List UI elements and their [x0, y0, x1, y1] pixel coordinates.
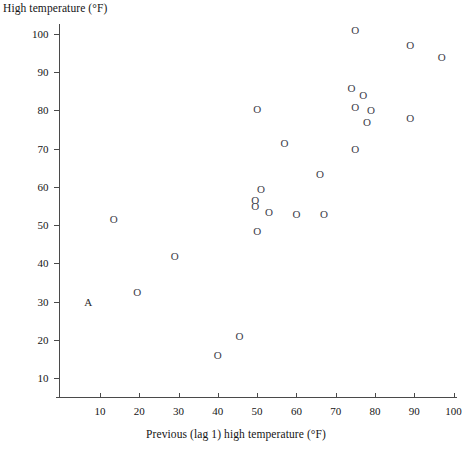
x-tick-mark	[336, 393, 337, 398]
y-tick-label: 30	[11, 296, 49, 308]
y-tick-label: 60	[11, 181, 49, 193]
x-tick-mark	[218, 393, 219, 398]
y-tick-mark	[54, 110, 59, 111]
x-tick-mark	[296, 393, 297, 398]
y-tick-label: 50	[11, 219, 49, 231]
data-point: O	[281, 137, 289, 148]
x-tick-label: 10	[95, 405, 106, 417]
y-tick-mark	[54, 149, 59, 150]
data-point: O	[351, 25, 359, 36]
x-tick-mark	[100, 393, 101, 398]
data-point: O	[214, 350, 222, 361]
data-point: O	[253, 225, 261, 236]
x-tick-mark	[414, 393, 415, 398]
data-point: O	[257, 183, 265, 194]
data-point: O	[406, 113, 414, 124]
x-tick-mark	[375, 393, 376, 398]
x-tick-mark	[179, 393, 180, 398]
x-tick-label: 80	[369, 405, 380, 417]
y-axis-line	[59, 24, 60, 397]
data-point: O	[133, 287, 141, 298]
y-tick-label: 70	[11, 143, 49, 155]
data-point: O	[316, 168, 324, 179]
data-point: O	[171, 250, 179, 261]
scatter-plot: High temperature (°F) Previous (lag 1) h…	[0, 0, 472, 457]
x-tick-mark	[454, 393, 455, 398]
data-point: O	[363, 116, 371, 127]
y-tick-label: 90	[11, 66, 49, 78]
data-point: O	[359, 90, 367, 101]
x-tick-label: 100	[445, 405, 462, 417]
data-point: O	[251, 201, 259, 212]
y-tick-label: 10	[11, 372, 49, 384]
data-point: O	[347, 82, 355, 93]
x-tick-label: 90	[409, 405, 420, 417]
data-point: O	[406, 40, 414, 51]
x-tick-label: 20	[134, 405, 145, 417]
data-point: O	[438, 51, 446, 62]
data-point: O	[110, 214, 118, 225]
x-tick-label: 30	[173, 405, 184, 417]
y-tick-mark	[54, 378, 59, 379]
data-point: O	[292, 208, 300, 219]
data-point: O	[235, 330, 243, 341]
y-tick-mark	[54, 302, 59, 303]
data-point: O	[367, 105, 375, 116]
y-tick-label: 80	[11, 104, 49, 116]
y-tick-mark	[54, 187, 59, 188]
data-point: A	[84, 296, 92, 307]
y-tick-mark	[54, 263, 59, 264]
y-tick-mark	[54, 340, 59, 341]
x-tick-label: 60	[291, 405, 302, 417]
x-tick-label: 70	[330, 405, 341, 417]
data-point: O	[351, 143, 359, 154]
data-point: O	[265, 206, 273, 217]
y-tick-mark	[54, 72, 59, 73]
x-tick-mark	[257, 393, 258, 398]
x-tick-mark	[139, 393, 140, 398]
x-tick-label: 50	[252, 405, 263, 417]
data-point: O	[351, 101, 359, 112]
x-axis-title: Previous (lag 1) high temperature (°F)	[146, 428, 326, 440]
data-point: O	[253, 103, 261, 114]
data-point: O	[320, 208, 328, 219]
y-tick-label: 100	[11, 28, 49, 40]
x-tick-label: 40	[212, 405, 223, 417]
y-tick-label: 40	[11, 257, 49, 269]
y-axis-title: High temperature (°F)	[3, 2, 107, 14]
y-tick-label: 20	[11, 334, 49, 346]
y-tick-mark	[54, 225, 59, 226]
x-axis-line	[56, 397, 457, 398]
y-tick-mark	[54, 34, 59, 35]
